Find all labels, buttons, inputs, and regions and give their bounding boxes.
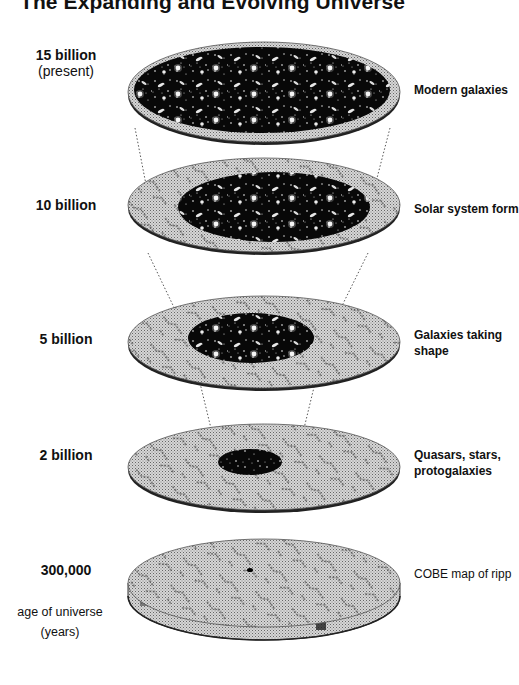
age-label-5-billion: 5 billion [6,331,126,347]
stage-description-galaxies-shape: Galaxies taking shape [414,327,502,359]
galaxy-region [134,47,390,133]
age-label-300000: 300,000 [6,562,126,578]
disk-2-billion-years [128,424,400,513]
protogalaxy-region [218,449,282,475]
age-sublabel: (present) [6,63,126,79]
disk-300000-years [128,539,400,640]
age-label-2-billion: 2 billion [6,447,126,463]
stage-description-solar-system: Solar system form [414,201,519,217]
age-label-10-billion: 10 billion [6,197,126,213]
cobe-dot [247,568,253,572]
disk-5-billion-years [128,296,400,391]
axis-label: age of universe (years) [0,602,120,642]
galaxy-region [178,172,370,242]
disk-10-billion-years [128,158,400,255]
stage-description-modern-galaxies: Modern galaxies [414,82,508,98]
galaxy-region [188,313,314,363]
stage-description-quasars: Quasars, stars, protogalaxies [414,447,501,479]
stage-description-cobe: COBE map of ripp [414,566,511,582]
disk-15-billion-years [128,42,400,145]
age-label-15-billion: 15 billion (present) [6,47,126,79]
